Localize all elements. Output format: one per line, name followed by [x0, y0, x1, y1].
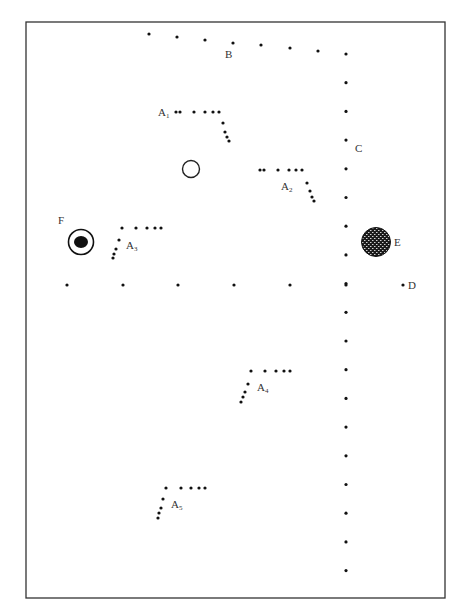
- dot-a2: [294, 168, 297, 171]
- dot-a3: [114, 247, 117, 250]
- dot-a2: [258, 168, 261, 171]
- dot-group-a5: [156, 486, 206, 519]
- filled-core-f: [74, 236, 88, 248]
- dot-a5: [179, 486, 182, 489]
- dot-path-b: [147, 32, 319, 52]
- dot-a4: [282, 369, 285, 372]
- dot-groups-a: [111, 110, 315, 519]
- dot-b: [288, 46, 291, 49]
- dot-row: [288, 283, 291, 286]
- dot-c: [344, 368, 347, 371]
- dot-row: [176, 283, 179, 286]
- dot-a2: [310, 195, 313, 198]
- dot-b: [259, 43, 262, 46]
- dot-c: [344, 454, 347, 457]
- dot-c: [344, 311, 347, 314]
- dot-c: [344, 426, 347, 429]
- textured-ball-e: [362, 228, 391, 257]
- dot-b: [147, 32, 150, 35]
- diagram-frame: [26, 22, 445, 598]
- dot-a5: [156, 516, 159, 519]
- dot-a5: [159, 506, 162, 509]
- dot-a3: [112, 252, 115, 255]
- dot-c: [344, 81, 347, 84]
- dot-a5: [157, 511, 160, 514]
- dot-d: [401, 283, 404, 286]
- dot-a3: [117, 238, 120, 241]
- dot-row-d: [65, 283, 404, 286]
- dot-a3: [120, 226, 123, 229]
- dot-c: [344, 512, 347, 515]
- dot-a1: [174, 110, 177, 113]
- dot-a4: [249, 369, 252, 372]
- dot-a3: [145, 226, 148, 229]
- dot-a2: [276, 168, 279, 171]
- dot-a1: [223, 130, 226, 133]
- dot-a1: [217, 110, 220, 113]
- label-a3: A3: [126, 239, 138, 253]
- dot-c: [344, 540, 347, 543]
- dot-a1: [227, 139, 230, 142]
- dot-c: [344, 139, 347, 142]
- dot-a3: [111, 256, 114, 259]
- dot-a4: [243, 390, 246, 393]
- dot-a4: [274, 369, 277, 372]
- label-b: B: [225, 48, 232, 60]
- dot-a3: [159, 226, 162, 229]
- open-circle-marker: [183, 161, 200, 178]
- dot-b: [231, 41, 234, 44]
- dot-c: [344, 167, 347, 170]
- dot-a1: [221, 121, 224, 124]
- dot-a4: [263, 369, 266, 372]
- dot-group-a1: [174, 110, 230, 142]
- dot-a1: [203, 110, 206, 113]
- dot-a5: [203, 486, 206, 489]
- dot-a5: [161, 497, 164, 500]
- dot-c: [344, 339, 347, 342]
- label-a5: A5: [171, 498, 183, 512]
- dot-a1: [178, 110, 181, 113]
- label-f: F: [58, 214, 64, 226]
- dot-row: [65, 283, 68, 286]
- dot-a2: [287, 168, 290, 171]
- dot-a1: [225, 135, 228, 138]
- dot-c: [344, 397, 347, 400]
- label-c: C: [355, 142, 362, 154]
- dot-row: [121, 283, 124, 286]
- dot-a4: [288, 369, 291, 372]
- dot-a2: [300, 168, 303, 171]
- dot-a3: [134, 226, 137, 229]
- dot-column-c: [344, 52, 347, 572]
- dot-b: [175, 35, 178, 38]
- dot-a4: [241, 395, 244, 398]
- dot-c: [344, 52, 347, 55]
- dot-c: [344, 483, 347, 486]
- dot-a5: [189, 486, 192, 489]
- dot-a2: [312, 199, 315, 202]
- dot-c: [344, 253, 347, 256]
- label-a2: A2: [281, 180, 293, 194]
- object-f: [69, 230, 94, 255]
- dot-b: [316, 49, 319, 52]
- object-e: [362, 228, 391, 257]
- dot-c: [344, 569, 347, 572]
- dot-a4: [239, 400, 242, 403]
- label-d: D: [408, 279, 416, 291]
- dot-a2: [305, 181, 308, 184]
- label-a1: A1: [158, 106, 170, 120]
- dot-b: [203, 38, 206, 41]
- dot-c: [344, 196, 347, 199]
- dot-a5: [164, 486, 167, 489]
- diagram-canvas: BCDEFA1A2A3A4A5: [0, 0, 465, 615]
- label-e: E: [394, 236, 401, 248]
- label-a4: A4: [257, 381, 269, 395]
- dot-a5: [197, 486, 200, 489]
- dot-a4: [246, 382, 249, 385]
- dot-a3: [153, 226, 156, 229]
- dot-row: [232, 283, 235, 286]
- dot-row: [344, 283, 347, 286]
- dot-group-a3: [111, 226, 162, 259]
- dot-a1: [192, 110, 195, 113]
- dot-a2: [262, 168, 265, 171]
- diagram-labels: BCDEFA1A2A3A4A5: [58, 48, 416, 512]
